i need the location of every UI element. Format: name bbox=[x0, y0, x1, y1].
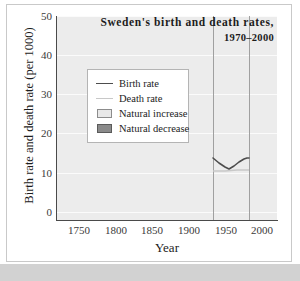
x-tick-1850: 1850 bbox=[132, 224, 172, 236]
chart-figure: 50 40 30 20 10 0 1750 1800 1850 1900 195… bbox=[0, 0, 300, 281]
x-tick-1950: 1950 bbox=[206, 224, 246, 236]
legend-line-icon-birth-rate bbox=[95, 83, 113, 85]
legend-swatch-icon-natural-increase bbox=[95, 109, 113, 118]
legend-item-natural-increase: Natural increase bbox=[95, 106, 181, 121]
x-tick-2000: 2000 bbox=[242, 224, 282, 236]
birth-rate-curve bbox=[213, 158, 249, 169]
chart-subtitle: 1970–2000 bbox=[80, 32, 274, 43]
chart-title: Sweden's birth and death rates, bbox=[80, 16, 274, 28]
legend-swatch-icon-natural-decrease bbox=[95, 124, 113, 133]
page-bottom-band bbox=[0, 264, 300, 281]
legend-item-natural-decrease: Natural decrease bbox=[95, 121, 181, 136]
x-tick-1750: 1750 bbox=[59, 224, 99, 236]
y-axis-label: Birth rate and death rate (per 1000) bbox=[22, 11, 37, 221]
legend-label-natural-decrease: Natural decrease bbox=[119, 123, 189, 134]
legend-item-death-rate: Death rate bbox=[95, 91, 181, 106]
legend-item-birth-rate: Birth rate bbox=[95, 76, 181, 91]
legend-label-birth-rate: Birth rate bbox=[119, 78, 159, 89]
chart-legend: Birth rate Death rate Natural increase N… bbox=[87, 69, 189, 143]
x-tick-1900: 1900 bbox=[169, 224, 209, 236]
x-tick-1800: 1800 bbox=[96, 224, 136, 236]
x-axis-label: Year bbox=[56, 240, 278, 256]
legend-line-icon-death-rate bbox=[95, 98, 113, 100]
chart-title-block: Sweden's birth and death rates, 1970–200… bbox=[80, 16, 274, 43]
x-axis-line bbox=[56, 220, 278, 221]
legend-label-death-rate: Death rate bbox=[119, 93, 162, 104]
legend-label-natural-increase: Natural increase bbox=[119, 108, 188, 119]
death-rate-curve bbox=[213, 170, 249, 171]
y-axis-line bbox=[56, 16, 57, 221]
